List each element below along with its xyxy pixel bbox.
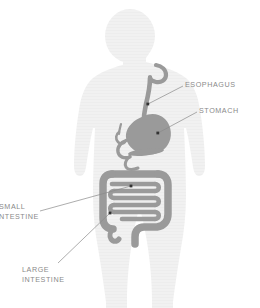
dot-large-intestine	[109, 212, 112, 215]
label-stomach-text: STOMACH	[199, 106, 239, 116]
dot-small-intestine	[130, 185, 133, 188]
label-large-intestine-line2: INTESTINE	[22, 275, 65, 285]
digestive-system-diagram: ESOPHAGUS STOMACH SMALL NTESTINE LARGE I…	[0, 0, 260, 308]
label-small-intestine: SMALL NTESTINE	[0, 202, 39, 221]
anatomy-illustration	[0, 0, 260, 308]
label-small-intestine-line1: SMALL	[0, 202, 39, 212]
dot-esophagus	[146, 103, 149, 106]
label-large-intestine-line1: LARGE	[22, 265, 65, 275]
label-stomach: STOMACH	[199, 106, 239, 116]
label-large-intestine: LARGE INTESTINE	[22, 265, 65, 284]
body-silhouette	[74, 9, 205, 308]
label-small-intestine-line2: NTESTINE	[0, 212, 39, 222]
label-esophagus-text: ESOPHAGUS	[185, 80, 235, 90]
label-esophagus: ESOPHAGUS	[185, 80, 235, 90]
dot-stomach	[156, 132, 159, 135]
